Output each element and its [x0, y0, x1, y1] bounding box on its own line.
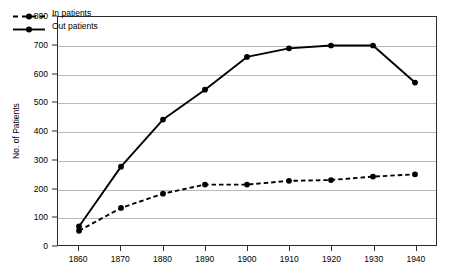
data-point: [202, 182, 208, 188]
y-tick-label: 400: [34, 127, 48, 136]
x-tick-mark: [416, 246, 417, 251]
legend-key-icon: [12, 21, 46, 32]
legend-item-out-patients[interactable]: Out patients: [12, 20, 98, 33]
x-tick-mark: [374, 246, 375, 251]
legend-label: In patients: [52, 9, 91, 18]
y-tick-label: 200: [34, 184, 48, 193]
x-tick-mark: [120, 246, 121, 251]
x-tick-label: 1910: [280, 255, 299, 264]
data-point: [76, 224, 82, 230]
y-tick-label: 100: [34, 213, 48, 222]
chart-legend: In patientsOut patients: [12, 7, 98, 33]
series-line: [79, 46, 415, 227]
legend-label: Out patients: [52, 22, 98, 31]
x-tick-label: 1860: [69, 255, 88, 264]
y-tick-label: 600: [34, 69, 48, 78]
x-tick-label: 1930: [364, 255, 383, 264]
data-point: [328, 177, 334, 183]
data-point: [286, 178, 292, 184]
y-tick-label: 300: [34, 156, 48, 165]
data-point: [118, 164, 124, 170]
data-point: [160, 191, 166, 197]
x-tick-label: 1870: [111, 255, 130, 264]
y-tick-label: 0: [43, 242, 48, 251]
legend-item-in-patients[interactable]: In patients: [12, 7, 98, 20]
x-tick-label: 1900: [238, 255, 257, 264]
data-point: [118, 205, 124, 211]
data-point: [160, 117, 166, 123]
series-in-patients: [76, 171, 418, 233]
series-layer: [58, 17, 436, 245]
plot-area: [57, 16, 437, 246]
series-out-patients: [76, 43, 418, 230]
x-tick-mark: [247, 246, 248, 251]
x-tick-label: 1920: [322, 255, 341, 264]
x-tick-mark: [331, 246, 332, 251]
data-point: [244, 54, 250, 60]
legend-key-icon: [12, 8, 46, 19]
data-point: [370, 174, 376, 180]
y-axis: No. of Patients 010020030040050060070080…: [0, 16, 57, 246]
x-tick-label: 1940: [406, 255, 425, 264]
chart-root: No. of Patients 010020030040050060070080…: [0, 0, 452, 280]
data-point: [370, 43, 376, 49]
data-point: [328, 43, 334, 49]
x-tick-mark: [289, 246, 290, 251]
x-tick-label: 1890: [195, 255, 214, 264]
data-point: [286, 45, 292, 51]
x-axis: 186018701880189019001910192019301940: [57, 246, 437, 280]
y-tick-label: 700: [34, 41, 48, 50]
data-point: [202, 87, 208, 93]
x-tick-mark: [78, 246, 79, 251]
y-axis-title: No. of Patients: [11, 71, 21, 191]
data-point: [412, 80, 418, 86]
data-point: [412, 171, 418, 177]
y-tick-label: 500: [34, 98, 48, 107]
x-tick-label: 1880: [153, 255, 172, 264]
x-tick-mark: [205, 246, 206, 251]
x-tick-mark: [163, 246, 164, 251]
data-point: [244, 182, 250, 188]
